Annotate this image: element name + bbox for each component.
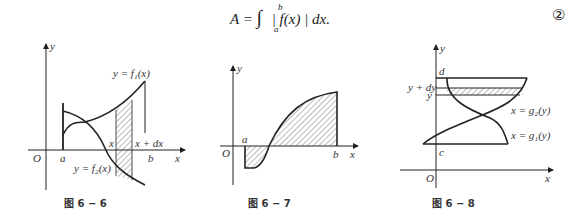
hatched-strip [447,88,523,95]
y-label: y [426,89,432,101]
f2-label: y = f₂(x) [73,162,111,175]
y-axis-label: y [439,42,445,54]
g2-label: x = g₂(y) [510,104,551,117]
a-label: a [242,133,248,145]
curve-f1 [63,81,145,135]
d-label: d [439,65,445,77]
x-axis-label: x [349,148,355,160]
hatched-area [245,92,337,168]
x-label: x [108,137,114,149]
x-dx-label: x + dx [134,137,163,149]
c-label: c [439,146,444,158]
origin-label: O [426,172,434,184]
b-label: b [148,152,154,164]
caption-6-6: 图 6 − 6 [64,198,107,209]
y-axis-label: y [49,40,55,52]
y-dy-label: y + dy [407,81,436,93]
origin-label: O [33,152,41,164]
a-label: a [60,152,66,164]
origin-label: O [222,147,230,159]
f1-label: y = f₁(x) [112,67,150,80]
g1-label: x = g₁(y) [510,129,551,142]
figure-6-6: y x O a b x x + dx y = f₁(x) y = f₂(x) 图… [28,40,185,209]
caption-6-8: 图 6 − 8 [432,198,475,209]
figures-canvas: y x O a b x x + dx y = f₁(x) y = f₂(x) 图… [0,0,583,220]
x-axis-label: x [174,152,180,164]
figure-6-7: y x O a b 图 6 − 7 [220,62,358,209]
caption-6-7: 图 6 − 7 [248,198,291,209]
b-label: b [333,148,339,160]
y-axis-label: y [236,62,242,74]
figure-6-8: y x O d c y + dy y x = g₂(y) x = g₁(y) 图… [400,42,553,209]
x-axis-label: x [544,172,550,184]
